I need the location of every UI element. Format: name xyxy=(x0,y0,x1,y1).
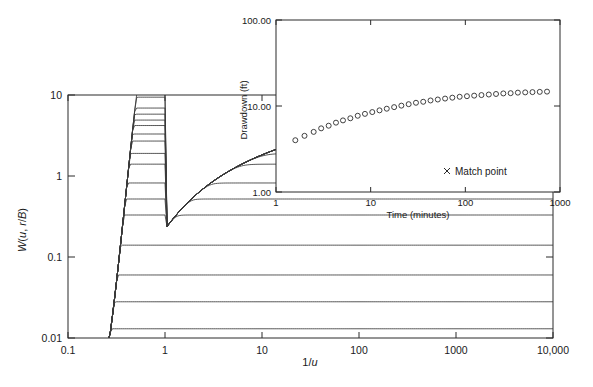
inset-plot-group: 1101001000 1.0010.00100.00 Time (minutes… xyxy=(238,15,571,220)
type-curve xyxy=(108,302,553,341)
inset-y-tick-label: 100.00 xyxy=(242,15,271,26)
main-x-tick-label: 0.1 xyxy=(61,344,76,356)
main-y-tick-label: 0.1 xyxy=(47,251,62,263)
type-curve-plot: 0.1110100100010,000 0.010.1110 1/u W(u, … xyxy=(0,0,593,387)
main-y-tick-label: 1 xyxy=(56,170,62,182)
type-curve xyxy=(108,329,553,341)
inset-x-tick-label: 100 xyxy=(457,197,473,208)
inset-y-axis-title: Drawdown (ft) xyxy=(238,80,249,139)
match-point-label: Match point xyxy=(455,166,507,177)
type-curve xyxy=(108,275,553,341)
main-y-tick-label: 10 xyxy=(50,89,62,101)
inset-x-tick-label: 10 xyxy=(365,197,376,208)
main-y-tick-label: 0.01 xyxy=(42,332,63,344)
type-curve xyxy=(108,245,553,341)
inset-y-tick-label: 10.00 xyxy=(247,101,271,112)
type-curve xyxy=(108,199,553,341)
figure-container: 0.1110100100010,000 0.010.1110 1/u W(u, … xyxy=(0,0,593,387)
main-x-tick-label: 10,000 xyxy=(537,344,569,356)
main-x-tick-label: 100 xyxy=(350,344,368,356)
inset-x-axis-title: Time (minutes) xyxy=(387,209,450,220)
main-y-tick-labels: 0.010.1110 xyxy=(42,89,63,344)
main-x-tick-label: 10 xyxy=(256,344,268,356)
main-x-tick-label: 1000 xyxy=(444,344,468,356)
main-x-tick-labels: 0.1110100100010,000 xyxy=(61,344,570,356)
inset-x-tick-label: 1000 xyxy=(549,197,570,208)
main-y-axis-title: W(u, r/B) xyxy=(16,208,28,252)
type-curve xyxy=(108,183,553,341)
main-x-tick-label: 1 xyxy=(162,344,168,356)
inset-background xyxy=(276,20,560,192)
type-curve xyxy=(108,215,553,341)
inset-x-tick-label: 1 xyxy=(273,197,278,208)
inset-y-tick-label: 1.00 xyxy=(253,187,272,198)
main-x-axis-title: 1/u xyxy=(302,356,317,368)
